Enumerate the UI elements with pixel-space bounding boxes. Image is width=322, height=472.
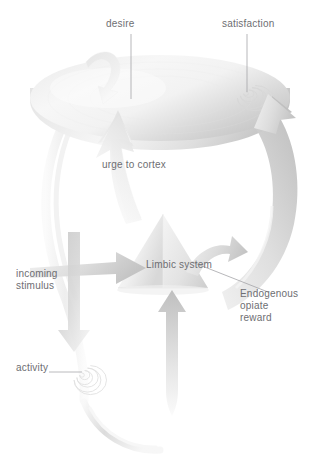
label-incoming-stimulus: incoming stimulus: [16, 268, 58, 292]
label-limbic-system: Limbic system: [146, 259, 212, 271]
cortex-disc: [30, 55, 290, 150]
limbic-pyramid: [117, 214, 209, 295]
label-urge-to-cortex: urge to cortex: [102, 159, 166, 171]
feedback-up-arrow: [158, 290, 186, 416]
loop-bottom-curve: [84, 402, 160, 450]
diagram-canvas: desire satisfaction urge to cortex Limbi…: [0, 0, 322, 472]
label-endogenous-opiate-reward: Endogenous opiate reward: [240, 288, 298, 324]
diagram-graphics: [0, 0, 322, 472]
label-activity: activity: [16, 362, 48, 374]
label-desire: desire: [106, 18, 134, 30]
label-satisfaction: satisfaction: [222, 18, 274, 30]
